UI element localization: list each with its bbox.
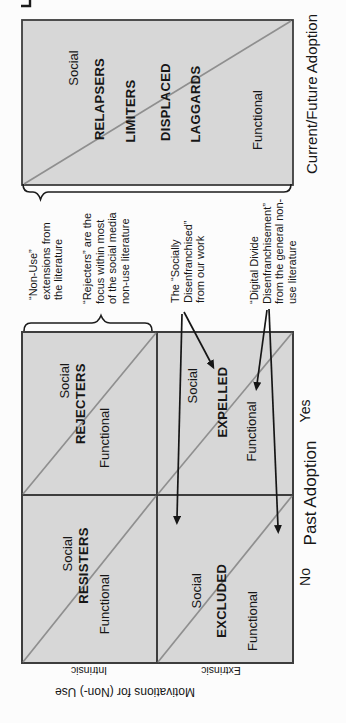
cell-name-resisters: RESISTERS bbox=[76, 527, 89, 603]
annotation-nonuse-extensions: “Non-Use” extensions from the literature bbox=[27, 222, 65, 300]
triangle-label-functional: Functional bbox=[98, 574, 111, 634]
y-axis-title: Motivations for (Non-) Use bbox=[55, 686, 195, 698]
spectrum-category-laggards: LAGGARDS bbox=[189, 66, 202, 143]
brace-nonuse-extensions-icon bbox=[23, 184, 291, 200]
x-axis-title-past-adoption: Past Adoption bbox=[302, 441, 319, 546]
cell-name-rejecters: REJECTERS bbox=[74, 363, 87, 444]
triangle-label-functional: Functional bbox=[98, 408, 111, 468]
x-axis-title-current-future-adoption: Current/Future Adoption bbox=[304, 14, 319, 174]
triangle-label-social: Social bbox=[60, 536, 73, 571]
triangle-label-functional: Functional bbox=[244, 401, 257, 461]
brace-rejecters-icon bbox=[24, 316, 152, 332]
spectrum-label-functional: Functional bbox=[251, 90, 264, 150]
cell-name-expelled: EXPELLED bbox=[216, 367, 229, 438]
spectrum-label-social: Social bbox=[67, 50, 80, 85]
annotation-rejecters-focus: “Rejecters” are the focus within most of… bbox=[81, 212, 131, 304]
cell-name-excluded: EXCLUDED bbox=[214, 564, 227, 638]
matrix-cell-resisters: Social RESISTERS Functional bbox=[22, 495, 157, 663]
annotation-socially-disenfranchised: The “Socially Disenfranchised” from our … bbox=[169, 220, 207, 303]
spectrum-category-limiters: LIMITERS bbox=[124, 79, 137, 142]
nonuse-typology-figure: Social RESISTERS Functional Social REJEC… bbox=[0, 0, 346, 723]
triangle-label-social: Social bbox=[57, 363, 70, 398]
matrix-cell-rejecters: Social REJECTERS Functional bbox=[22, 332, 157, 495]
triangle-label-social: Social bbox=[190, 573, 203, 608]
spectrum-category-displaced: DISPLACED bbox=[159, 63, 172, 141]
triangle-label-social: Social bbox=[186, 368, 199, 403]
y-axis-value-extrinsic: Extrinsic bbox=[201, 666, 241, 677]
triangle-label-functional: Functional bbox=[246, 591, 259, 651]
matrix-cell-excluded: Social EXCLUDED Functional bbox=[157, 495, 293, 663]
y-axis-value-intrinsic: Intrinsic bbox=[71, 666, 107, 677]
spectrum-category-relapsers: RELAPSERS bbox=[93, 58, 106, 140]
annotation-digital-divide: “Digital Divide Disenfranchisement” from… bbox=[248, 199, 298, 304]
figure-stage: Social RESISTERS Functional Social REJEC… bbox=[0, 0, 346, 723]
x-axis-value-no: No bbox=[298, 568, 312, 586]
scan-mark bbox=[21, 0, 30, 6]
matrix-cell-expelled: Social EXPELLED Functional bbox=[157, 332, 293, 495]
x-axis-value-yes: Yes bbox=[298, 400, 312, 423]
